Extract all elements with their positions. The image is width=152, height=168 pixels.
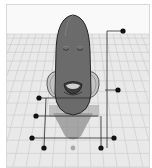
corner-back-left-handle[interactable]: [29, 135, 34, 140]
side-right-handle[interactable]: [115, 87, 120, 92]
side-left-mid-handle[interactable]: [33, 113, 38, 118]
corner-front-right-handle[interactable]: [98, 145, 103, 150]
height-handle[interactable]: [120, 28, 125, 33]
character-body[interactable]: [55, 15, 91, 115]
corner-front-left-handle[interactable]: [41, 145, 46, 150]
3d-viewport[interactable]: [6, 4, 150, 168]
side-left-upper-handle[interactable]: [36, 95, 41, 100]
center-handle[interactable]: [71, 146, 76, 151]
corner-back-right-handle[interactable]: [111, 135, 116, 140]
scene[interactable]: [7, 5, 149, 167]
